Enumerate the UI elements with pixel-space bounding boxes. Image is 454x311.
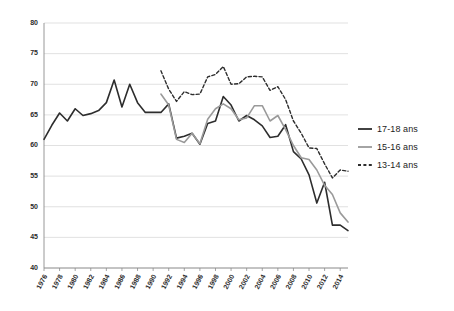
legend-item-15-16[interactable]: 15-16 ans xyxy=(358,141,418,152)
x-tick-label: 1990 xyxy=(144,273,158,290)
x-tick-label: 1992 xyxy=(160,273,174,290)
x-tick-label: 1976 xyxy=(35,273,49,290)
y-tick-label: 55 xyxy=(30,172,38,179)
x-tick-label: 1988 xyxy=(128,273,142,290)
y-axis-tick-labels: 404550556065707580 xyxy=(30,19,38,271)
x-tick-label: 2008 xyxy=(284,273,298,290)
x-tick-label: 1998 xyxy=(206,273,220,290)
x-tick-label: 1980 xyxy=(66,273,80,290)
data-series-group xyxy=(44,66,348,230)
y-tick-label: 45 xyxy=(30,233,38,240)
x-tick-label: 2014 xyxy=(331,273,345,290)
x-axis-tickmarks xyxy=(44,268,340,271)
y-tick-label: 65 xyxy=(30,111,38,118)
line-chart: 404550556065707580 197619781980198219841… xyxy=(0,0,454,311)
legend-label-15-16: 15-16 ans xyxy=(377,142,418,152)
x-tick-label: 1982 xyxy=(82,273,96,290)
series-line-15-16-ans xyxy=(161,94,348,222)
y-tick-label: 75 xyxy=(30,49,38,56)
solid-dark-line-icon xyxy=(358,125,372,133)
y-tick-label: 60 xyxy=(30,141,38,148)
x-tick-label: 1984 xyxy=(97,273,111,290)
x-axis-tick-labels: 1976197819801982198419861988199019921994… xyxy=(35,273,345,290)
x-tick-label: 2002 xyxy=(238,273,252,290)
chart-legend: 17-18 ans 15-16 ans 13-14 ans xyxy=(358,123,418,170)
series-line-13-14-ans xyxy=(161,66,348,177)
solid-gray-line-icon xyxy=(358,143,372,151)
x-tick-label: 1978 xyxy=(50,273,64,290)
x-tick-label: 1996 xyxy=(191,273,205,290)
dashed-dark-line-icon xyxy=(358,161,372,169)
x-tick-label: 2000 xyxy=(222,273,236,290)
y-tick-label: 40 xyxy=(30,264,38,271)
x-tick-label: 1986 xyxy=(113,273,127,290)
y-tick-label: 70 xyxy=(30,80,38,87)
legend-label-13-14: 13-14 ans xyxy=(377,160,418,170)
series-line-17-18-ans xyxy=(44,80,348,231)
x-tick-label: 2010 xyxy=(300,273,314,290)
legend-label-17-18: 17-18 ans xyxy=(377,124,418,134)
x-tick-label: 2004 xyxy=(253,273,267,290)
legend-item-13-14[interactable]: 13-14 ans xyxy=(358,159,418,170)
x-tick-label: 2012 xyxy=(316,273,330,290)
x-tick-label: 2006 xyxy=(269,273,283,290)
y-tick-label: 80 xyxy=(30,19,38,26)
y-tick-label: 50 xyxy=(30,203,38,210)
gridlines-group xyxy=(44,23,348,268)
legend-item-17-18[interactable]: 17-18 ans xyxy=(358,123,418,134)
x-tick-label: 1994 xyxy=(175,273,189,290)
